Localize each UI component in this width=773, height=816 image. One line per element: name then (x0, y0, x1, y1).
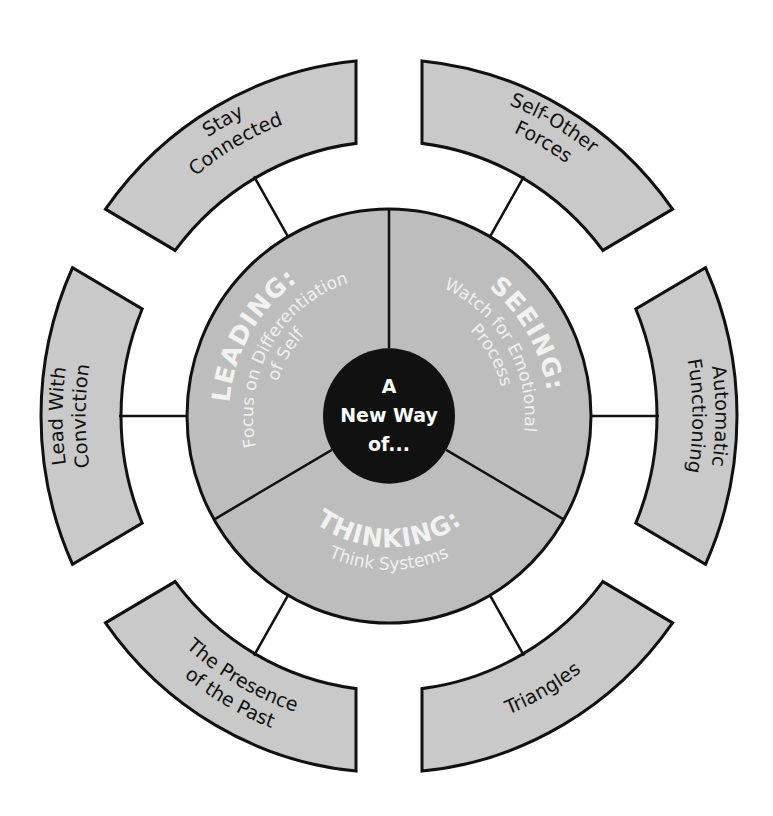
segment-label-line: Automatic (707, 364, 733, 468)
spoke-self-other-forces (490, 176, 524, 236)
spoke-triangles (490, 595, 524, 655)
hub-line-3: of... (368, 433, 410, 456)
segment-label-line: Lead With (45, 365, 71, 467)
hub-line-2: New Way (340, 404, 438, 427)
hub-line-1: A (382, 375, 397, 398)
new-way-of-diagram: StayConnectedSelf-OtherForcesAutomaticFu… (0, 0, 773, 816)
spoke-stay-connected (254, 176, 288, 236)
center-hub: A New Way of... (323, 348, 455, 483)
spoke-presence-of-the-past (254, 595, 288, 655)
